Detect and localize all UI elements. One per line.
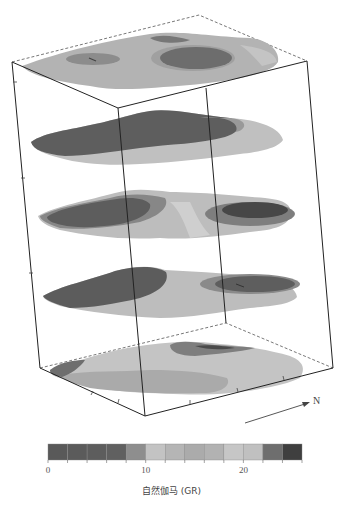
slice-4 [43, 267, 300, 318]
colorbar-bin [204, 444, 224, 460]
colorbar-tick-label: 0 [46, 465, 51, 475]
colorbar-bin [243, 444, 263, 460]
slice-bottom-surface [50, 342, 303, 395]
colorbar-bin [185, 444, 205, 460]
colorbar-bin [282, 444, 302, 460]
slice-top-surface [22, 33, 278, 89]
colorbar-title: 自然伽马 (GR) [0, 484, 343, 497]
colorbar-bin [68, 444, 88, 460]
colorbar-bin [146, 444, 166, 460]
north-arrow-icon [245, 402, 310, 423]
colorbar-bin [107, 444, 127, 460]
colorbar-bin [224, 444, 244, 460]
colorbar-bin [126, 444, 146, 460]
colorbar-bin [48, 444, 68, 460]
colorbar-bin [87, 444, 107, 460]
colorbar [48, 444, 302, 463]
colorbar-tick-label: 20 [239, 465, 248, 475]
colorbar-tick-label: 10 [141, 465, 150, 475]
slice-3 [38, 190, 295, 239]
north-label: N [313, 395, 320, 406]
colorbar-bin [165, 444, 185, 460]
fence-diagram [0, 0, 343, 508]
slice-2 [31, 110, 283, 164]
colorbar-bin [263, 444, 283, 460]
